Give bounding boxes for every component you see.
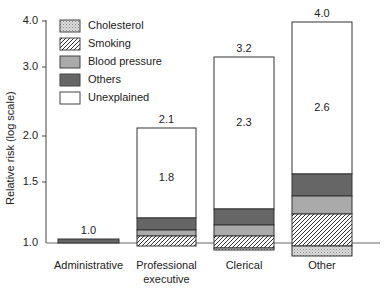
- y-tick-label: 1.0: [8, 236, 38, 248]
- category-label: Administrative: [48, 258, 129, 272]
- legend-unexplained: Unexplained: [88, 91, 149, 103]
- chart-canvas: [0, 0, 389, 288]
- bar-total-label: 2.1: [137, 113, 196, 125]
- bar-unexplained-label: 2.3: [214, 116, 274, 128]
- category-label: Other: [282, 258, 362, 272]
- category-label: Professional: [127, 258, 206, 272]
- bar-total-label: 4.0: [292, 7, 352, 19]
- legend-blood-pressure: Blood pressure: [88, 55, 162, 67]
- category-label-line2: executive: [127, 272, 206, 286]
- y-tick-label: 3.0: [8, 60, 38, 72]
- legend-cholesterol: Cholesterol: [88, 19, 144, 31]
- bar-unexplained-label: 2.6: [292, 101, 352, 113]
- bar-total-label: 3.2: [214, 42, 274, 54]
- y-axis-title: Relative risk (log scale): [4, 91, 16, 205]
- category-label: Clerical: [204, 258, 284, 272]
- bar-unexplained-label: 1.8: [137, 171, 196, 183]
- bar-total-label: 1.0: [58, 224, 119, 236]
- legend-smoking: Smoking: [88, 37, 131, 49]
- y-tick-label: 4.0: [8, 14, 38, 26]
- legend-others: Others: [88, 73, 121, 85]
